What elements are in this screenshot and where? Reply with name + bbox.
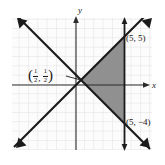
vertical-line-arrow-bottom [122,144,128,151]
point-label-top: (5, 5) [126,33,146,43]
y-axis-label: y [78,5,82,15]
point-label-bottom: (5, −4) [126,117,151,127]
x-axis-label: x [152,80,156,90]
graph-figure: (5, 5) (5, −4) x y ( 1 2 , 1 2 ) [0,0,165,165]
line-pos-arrow-upper [142,18,153,29]
vertex-close-paren: ) [48,67,53,83]
vertex-point-label: ( 1 2 , 1 2 ) [28,68,53,84]
vertical-line-arrow-top [122,17,128,24]
shaded-solution-region [81,37,125,123]
plot-lines-layer [0,0,165,165]
x-axis-arrow [143,82,150,88]
y-axis-arrow [73,16,79,23]
line-neg-arrow-upper [17,18,28,29]
